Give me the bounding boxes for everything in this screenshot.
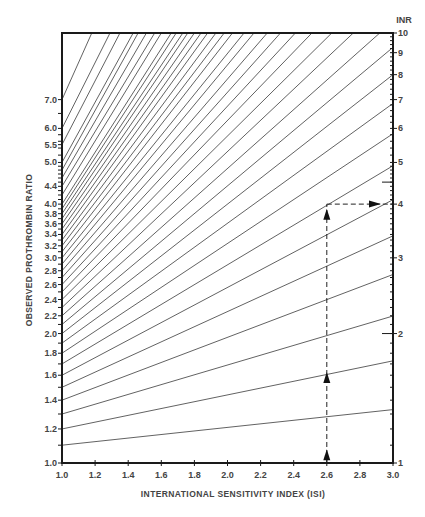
isi-tick-label: 2.0 [221,470,234,480]
isi-tick-label: 2.8 [354,470,367,480]
ratio-tick-label: 1.2 [44,424,57,434]
ratio-line [62,33,244,258]
ratio-tick-label: 3.8 [44,209,57,219]
inr-tick-label: 7 [398,95,403,105]
ratio-line [62,134,393,354]
ratio-line [62,316,393,414]
inr-tick-label: 2 [398,329,403,339]
isi-tick-label: 2.4 [287,470,300,480]
example-dashed-arrow [323,201,393,463]
ratio-line [62,236,393,387]
ratio-tick-label: 6.0 [44,123,57,133]
ratio-line [62,200,393,376]
ratio-line [62,33,224,246]
ratio-line [62,33,353,307]
inr-tick-label: 9 [398,48,403,58]
ratio-tick-label: 2.2 [44,311,57,321]
isi-tick-label: 3.0 [387,470,400,480]
ratio-line [62,33,267,271]
plot-frame [62,33,393,463]
ratio-lines [62,33,393,445]
ratio-tick-label: 3.2 [44,241,57,251]
ratio-tick-label: 4.0 [44,199,57,209]
ratio-line [62,33,133,162]
ratio-line [62,33,92,100]
ratio-tick-label: 5.0 [44,157,57,167]
ratio-line [62,361,393,429]
inr-tick-label: 1 [398,458,403,468]
y-axis-title: OBSERVED PROTHROMBIN RATIO [24,174,34,327]
ratio-tick-label: 2.8 [44,266,57,276]
ratio-tick-label: 4.4 [44,181,57,191]
ratio-line [62,33,280,278]
ratio-line [62,33,110,128]
inr-axis-title: INR [396,15,412,25]
inr-tick-label: 10 [398,28,408,38]
isi-tick-label: 1.8 [188,470,201,480]
isi-tick-label: 1.0 [56,470,69,480]
ratio-tick-label: 1.4 [44,395,57,405]
ratio-tick-label: 2.6 [44,280,57,290]
ratio-line [62,166,393,364]
arrow-up-icon [323,372,330,383]
isi-inr-nomogram: 1.01.21.41.61.82.02.22.42.62.83.03.23.43… [0,0,425,517]
ratio-line [62,410,393,446]
ratio-line [62,33,183,214]
ratio-line [62,33,208,234]
ratio-line [62,33,171,204]
ratio-tick-label: 7.0 [44,95,57,105]
ratio-tick-label: 2.4 [44,295,57,305]
inr-tick-label: 4 [398,199,403,209]
isi-tick-label: 1.6 [155,470,168,480]
ratio-tick-label: 3.0 [44,253,57,263]
ratio-tick-label: 1.6 [44,370,57,380]
arrow-up-icon [323,449,330,460]
arrow-up-icon [323,209,330,220]
ratio-line [62,33,161,195]
ratio-tick-label: 5.5 [44,140,57,150]
ratio-line [62,274,393,400]
ratio-tick-label: 2.0 [44,329,57,339]
ratio-line [62,33,332,300]
ratio-tick-label: 1.8 [44,348,57,358]
inr-tick-label: 6 [398,123,403,133]
ratio-tick-label: 3.6 [44,219,57,229]
x-axis-title: INTERNATIONAL SENSITIVITY INDEX (ISI) [141,489,325,499]
ratio-line [62,47,393,324]
ratio-tick-label: 3.4 [44,229,57,239]
inr-tick-label: 8 [398,70,403,80]
isi-tick-label: 1.4 [122,470,135,480]
inr-tick-label: 3 [398,253,403,263]
inr-tick-label: 5 [398,157,403,167]
isi-tick-label: 2.6 [321,470,334,480]
isi-tick-label: 2.2 [254,470,267,480]
ratio-tick-label: 1.0 [44,458,57,468]
ratio-line [62,33,216,240]
isi-tick-label: 1.2 [89,470,102,480]
